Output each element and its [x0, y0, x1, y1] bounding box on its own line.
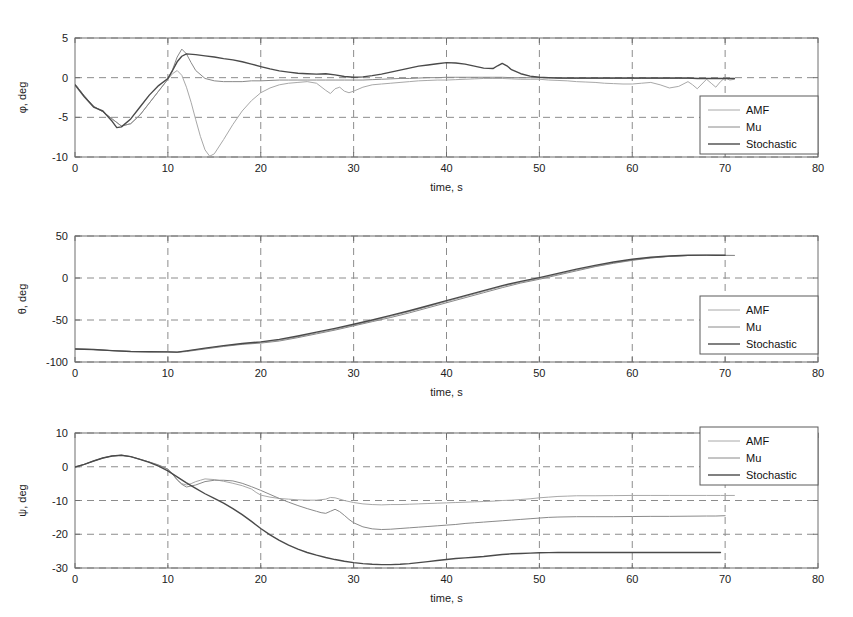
- y-tick-label: -20: [52, 528, 68, 540]
- x-tick-label: 50: [533, 573, 545, 585]
- y-tick-label: -10: [52, 495, 68, 507]
- x-axis-label: time, s: [430, 386, 463, 398]
- x-tick-label: 80: [812, 573, 824, 585]
- y-tick-label: -5: [58, 111, 68, 123]
- series-group: [75, 455, 734, 564]
- x-tick-label: 20: [255, 573, 267, 585]
- x-tick-label: 20: [255, 367, 267, 379]
- series-line-amf: [75, 71, 734, 157]
- plot-psi-content: 01020304050607080100-10-20-30time, sψ, d…: [16, 427, 824, 604]
- x-tick-label: 10: [162, 573, 174, 585]
- series-group: [75, 49, 734, 156]
- y-tick-label: 0: [62, 272, 68, 284]
- subplot-psi-svg: 01020304050607080100-10-20-30time, sψ, d…: [0, 405, 853, 617]
- x-tick-label: 10: [162, 367, 174, 379]
- series-line-mu: [75, 255, 734, 352]
- subplot-phi: 0102030405060708050-5-10time, sφ, degAMF…: [0, 0, 853, 200]
- x-tick-label: 0: [72, 162, 78, 174]
- x-tick-label: 40: [440, 573, 452, 585]
- figure-root: 0102030405060708050-5-10time, sφ, degAMF…: [0, 0, 853, 617]
- x-tick-label: 70: [719, 162, 731, 174]
- legend-label-stochastic: Stochastic: [746, 469, 797, 481]
- y-tick-label: 5: [62, 32, 68, 44]
- y-tick-label: -100: [46, 356, 68, 368]
- y-tick-label: 10: [56, 427, 68, 439]
- series-line-stochastic: [75, 455, 720, 564]
- legend-label-mu: Mu: [746, 121, 761, 133]
- y-tick-label: 50: [56, 230, 68, 242]
- legend-label-amf: AMF: [746, 435, 770, 447]
- series-line-amf: [75, 255, 734, 352]
- legend-label-stochastic: Stochastic: [746, 138, 797, 150]
- legend-label-stochastic: Stochastic: [746, 338, 797, 350]
- y-tick-label: -10: [52, 151, 68, 163]
- y-axis-label: φ, deg: [16, 82, 28, 114]
- x-tick-label: 40: [440, 162, 452, 174]
- legend-label-amf: AMF: [746, 104, 770, 116]
- x-tick-label: 60: [626, 367, 638, 379]
- x-tick-label: 80: [812, 367, 824, 379]
- legend: AMFMuStochastic: [700, 427, 818, 485]
- series-group: [75, 255, 734, 352]
- x-tick-label: 10: [162, 162, 174, 174]
- series-line-stochastic: [75, 255, 725, 352]
- x-tick-label: 30: [348, 367, 360, 379]
- subplot-psi: 01020304050607080100-10-20-30time, sψ, d…: [0, 405, 853, 617]
- x-tick-label: 30: [348, 573, 360, 585]
- legend: AMFMuStochastic: [700, 296, 818, 354]
- subplot-theta: 01020304050607080500-50-100time, sθ, deg…: [0, 200, 853, 405]
- legend-label-mu: Mu: [746, 452, 761, 464]
- subplot-theta-svg: 01020304050607080500-50-100time, sθ, deg…: [0, 200, 853, 405]
- series-line-amf: [75, 455, 734, 505]
- subplot-phi-svg: 0102030405060708050-5-10time, sφ, degAMF…: [0, 0, 853, 200]
- x-axis-label: time, s: [430, 181, 463, 193]
- x-tick-label: 80: [812, 162, 824, 174]
- y-axis-label: θ, deg: [16, 284, 28, 315]
- x-tick-label: 60: [626, 162, 638, 174]
- x-tick-label: 20: [255, 162, 267, 174]
- legend-label-amf: AMF: [746, 304, 770, 316]
- y-tick-label: 0: [62, 461, 68, 473]
- x-tick-label: 50: [533, 162, 545, 174]
- y-axis-label: ψ, deg: [16, 484, 28, 516]
- plot-phi-content: 0102030405060708050-5-10time, sφ, degAMF…: [16, 32, 824, 193]
- x-tick-label: 0: [72, 573, 78, 585]
- y-tick-label: -50: [52, 314, 68, 326]
- y-tick-label: 0: [62, 72, 68, 84]
- x-tick-label: 70: [719, 573, 731, 585]
- plot-theta-content: 01020304050607080500-50-100time, sθ, deg…: [16, 230, 824, 398]
- x-axis-label: time, s: [430, 592, 463, 604]
- x-tick-label: 40: [440, 367, 452, 379]
- x-tick-label: 30: [348, 162, 360, 174]
- legend: AMFMuStochastic: [700, 96, 818, 154]
- series-line-mu: [75, 49, 734, 126]
- x-tick-label: 60: [626, 573, 638, 585]
- x-tick-label: 0: [72, 367, 78, 379]
- legend-label-mu: Mu: [746, 321, 761, 333]
- x-tick-label: 70: [719, 367, 731, 379]
- y-tick-label: -30: [52, 562, 68, 574]
- x-tick-label: 50: [533, 367, 545, 379]
